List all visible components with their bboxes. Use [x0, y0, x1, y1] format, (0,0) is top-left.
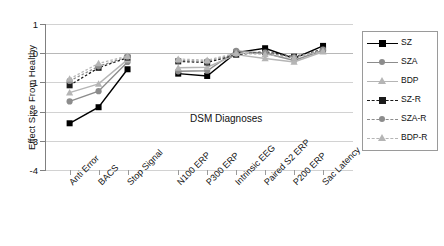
y-axis-tick-mark [40, 112, 45, 113]
y-axis-tick-label: 0 [4, 48, 38, 59]
y-axis-tick-mark [40, 82, 45, 83]
y-axis-tick-label: -1 [4, 77, 38, 88]
legend-label: SZA-R [401, 113, 427, 123]
legend-label: SZA [401, 56, 418, 66]
data-point-marker [67, 120, 73, 126]
y-axis-tick-label: 1 [4, 19, 38, 30]
y-axis-tick-label: -3 [4, 135, 38, 146]
data-point-marker [67, 98, 73, 104]
legend-marker-square [379, 40, 386, 47]
data-point-marker [95, 88, 101, 94]
legend: SZSZABDPSZ-RSZA-RBDP-R [362, 31, 438, 151]
legend-item-sz[interactable]: SZ [363, 34, 437, 53]
data-point-marker [95, 60, 102, 66]
y-axis-tick-mark [40, 141, 45, 142]
data-point-marker [125, 66, 131, 72]
legend-marker-triangle [378, 134, 386, 141]
data-point-marker [204, 73, 210, 79]
legend-item-sza[interactable]: SZA [363, 53, 437, 72]
legend-label: BDP-R [401, 132, 427, 142]
legend-marker-circle [379, 59, 385, 65]
legend-label: BDP [401, 75, 418, 85]
x-axis-tick-mark [70, 170, 71, 175]
legend-marker-square [379, 97, 386, 104]
legend-item-sz-r[interactable]: SZ-R [363, 91, 437, 110]
y-axis-tick-label: -2 [4, 106, 38, 117]
data-point-marker [96, 104, 102, 110]
chart-root: Effect Size From Healthy DSM Diagnoses S… [0, 0, 444, 246]
legend-item-bdp[interactable]: BDP [363, 72, 437, 91]
y-axis-tick-mark [40, 53, 45, 54]
x-axis-tick-mark [99, 170, 100, 175]
legend-label: SZ [401, 37, 412, 47]
legend-item-bdp-r[interactable]: BDP-R [363, 129, 437, 148]
y-axis-tick-mark [40, 24, 45, 25]
chart-annotation: DSM Diagnoses [190, 113, 262, 124]
legend-label: SZ-R [401, 94, 421, 104]
legend-item-sza-r[interactable]: SZA-R [363, 110, 437, 129]
y-axis-tick-mark [40, 170, 45, 171]
x-axis-tick-mark [128, 170, 129, 175]
legend-marker-triangle [378, 77, 386, 84]
series-line [70, 69, 128, 123]
y-axis-tick-label: -4 [4, 165, 38, 176]
series-bdp [66, 48, 327, 95]
legend-marker-circle [379, 116, 385, 122]
data-point-marker [66, 75, 73, 81]
series-bdp-r [66, 47, 327, 82]
